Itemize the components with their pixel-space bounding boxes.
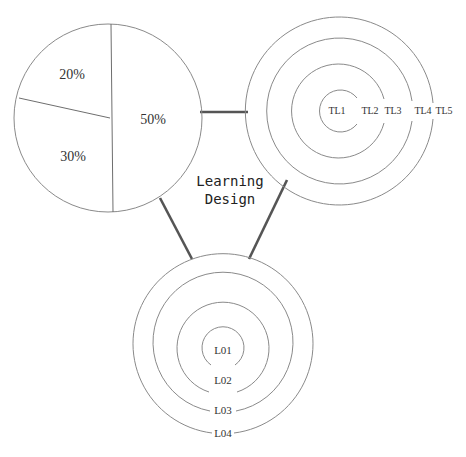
center-title-line-2: Design: [205, 191, 256, 207]
lo-label-2: L02: [214, 374, 232, 386]
lo-label-3: L03: [214, 404, 232, 416]
tl-label-2: TL2: [361, 105, 378, 116]
tl-label-4: TL4: [414, 105, 431, 116]
lo-label-4: L04: [214, 427, 232, 439]
tl-label-5: TL5: [435, 105, 452, 116]
learning-design-diagram: 50% 20% 30% TL1 TL2 TL3 TL4 TL5 L01 L02: [0, 0, 466, 457]
pie-divider-vertical: [111, 24, 113, 212]
tl-label-1: TL1: [328, 105, 345, 116]
pie-slice-20-label: 20%: [59, 67, 85, 82]
pie-chart: 50% 20% 30%: [14, 24, 202, 212]
lo-label-1: L01: [214, 344, 232, 356]
lo-ring-3: [153, 272, 293, 411]
center-title: Learning Design: [196, 173, 263, 207]
pie-divider-20-30: [19, 98, 110, 118]
tl-label-3: TL3: [384, 105, 401, 116]
teaching-levels-rings: TL1 TL2 TL3 TL4 TL5: [245, 17, 452, 205]
learning-outcomes-rings: L01 L02 L03 L04: [133, 254, 313, 439]
center-title-line-1: Learning: [196, 173, 263, 189]
connector-pie-to-lo: [160, 198, 192, 259]
pie-slice-30-label: 30%: [60, 149, 86, 164]
pie-slice-50-label: 50%: [140, 112, 166, 127]
